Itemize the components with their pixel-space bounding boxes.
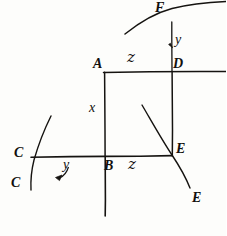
label-A: A	[93, 57, 102, 71]
label-x-left: x	[89, 101, 95, 115]
label-y-left: y	[63, 158, 69, 172]
rectangle-side-AB	[105, 72, 106, 156]
label-C-lower: C	[11, 176, 20, 190]
label-z-bottom: z	[128, 157, 136, 172]
label-y-above-D: y	[175, 33, 181, 47]
label-E-lower: E	[192, 191, 201, 205]
horizontal-line-through-A-D	[104, 71, 227, 72]
label-E-corner: E	[176, 142, 185, 156]
label-D: D	[173, 57, 183, 71]
label-F: F	[155, 1, 164, 15]
upper-curve-F	[125, 2, 226, 35]
hand-drawn-diagram: F y A z D x C y B z E C E	[0, 0, 226, 236]
horizontal-line-through-C-B-E	[31, 156, 172, 158]
label-B: B	[104, 159, 113, 173]
label-z-top: z	[127, 50, 135, 65]
label-C-upper: C	[14, 146, 23, 160]
left-curve-C	[31, 116, 51, 190]
